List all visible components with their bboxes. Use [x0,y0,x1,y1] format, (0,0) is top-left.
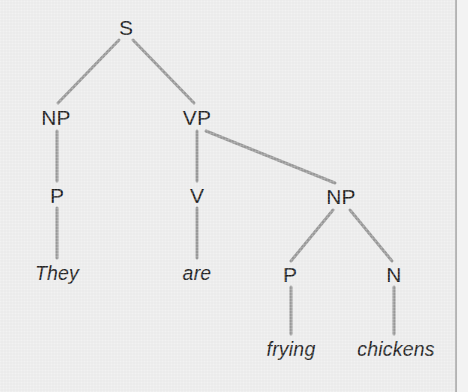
tree-edge-vp-to-np2 [206,131,335,183]
tree-node-p1: P [50,185,64,206]
tree-node-vp: VP [183,107,211,128]
tree-edge-np2-to-n [350,210,392,261]
tree-node-np1: NP [41,107,71,128]
tree-leaf-word-are: are [183,264,212,284]
tree-edge-s-to-np1 [58,40,119,103]
tree-leaf-word-frying: frying [267,340,316,360]
tree-edge-s-to-vp [133,40,194,103]
syntax-tree-figure: SNPVPPVNPPN Theyarefryingchickens [0,0,468,392]
tree-branches [0,0,468,392]
tree-leaf-word-chickens: chickens [357,340,434,360]
tree-node-s: S [119,17,133,38]
tree-leaf-word-they: They [35,264,79,284]
tree-node-p2: P [283,264,297,285]
tree-node-v: V [190,185,204,206]
tree-node-np2: NP [326,186,356,207]
tree-edge-np2-to-p2 [291,210,333,261]
page-right-gutter [457,0,468,392]
tree-node-n: N [386,264,401,285]
